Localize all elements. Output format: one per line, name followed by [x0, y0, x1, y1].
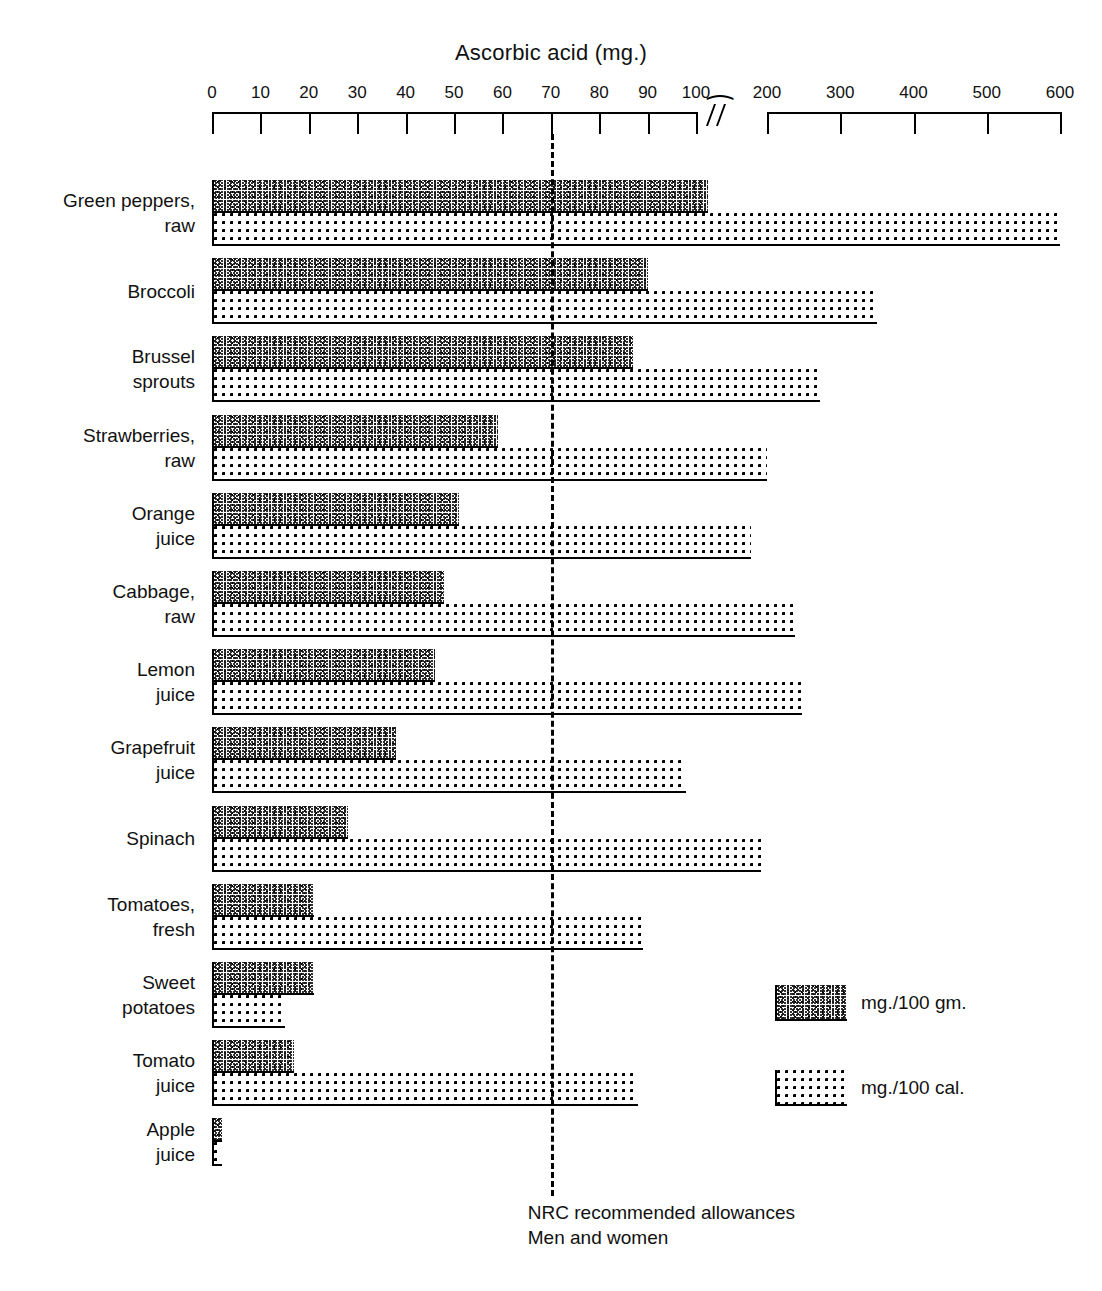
row-bars [212, 493, 751, 559]
row-bars [212, 180, 1060, 246]
category-label: Apple juice [30, 1117, 195, 1167]
axis-tick [260, 112, 262, 134]
axis-tick-label: 200 [737, 83, 797, 103]
bar-mg-per-100cal [212, 839, 761, 872]
axis-tick [502, 112, 504, 134]
bar-mg-per-100gm [212, 962, 314, 995]
axis-tick [987, 112, 989, 134]
bar-mg-per-100cal [212, 369, 820, 402]
nrc-reference-label: NRC recommended allowances Men and women [528, 1200, 795, 1250]
category-label-line2: juice [30, 1142, 195, 1167]
category-label-line2: juice [30, 760, 195, 785]
axis-tick-label: 100 [666, 83, 726, 103]
nrc-reference-line [551, 134, 554, 1196]
row-bars [212, 258, 877, 324]
category-label-line1: Brussel [30, 344, 195, 369]
legend-label: mg./100 gm. [861, 992, 967, 1014]
category-label: Spinach [30, 826, 195, 851]
category-label-line2: raw [30, 213, 195, 238]
category-label-line2: juice [30, 682, 195, 707]
axis-tick [599, 112, 601, 134]
category-label-line2: potatoes [30, 995, 195, 1020]
bar-mg-per-100gm [212, 806, 348, 839]
bar-mg-per-100gm [212, 1118, 222, 1142]
bar-mg-per-100cal [212, 291, 877, 324]
axis-tick [212, 112, 214, 134]
nrc-label-line2: Men and women [528, 1225, 795, 1250]
axis-tick [1060, 112, 1062, 134]
row-bars [212, 884, 643, 950]
legend-label: mg./100 cal. [861, 1077, 965, 1099]
axis-tick [406, 112, 408, 134]
category-label: Grapefruit juice [30, 735, 195, 785]
row-bars [212, 1040, 638, 1106]
category-label: Cabbage, raw [30, 579, 195, 629]
category-label-line1: Apple [30, 1117, 195, 1142]
category-label-line1: Broccoli [30, 279, 195, 304]
category-label: Strawberries, raw [30, 423, 195, 473]
axis-tick-label: 300 [810, 83, 870, 103]
row-bars [212, 1118, 222, 1166]
axis-tick [309, 112, 311, 134]
category-label-line2: sprouts [30, 369, 195, 394]
bar-mg-per-100cal [212, 213, 1060, 246]
bar-mg-per-100gm [212, 415, 498, 448]
category-label: Green peppers, raw [30, 188, 195, 238]
category-label-line1: Lemon [30, 657, 195, 682]
bar-mg-per-100gm [212, 258, 648, 291]
category-label-line1: Green peppers, [30, 188, 195, 213]
category-label-line2: raw [30, 448, 195, 473]
row-bars [212, 727, 686, 793]
category-label-line1: Grapefruit [30, 735, 195, 760]
category-label-line1: Tomatoes, [30, 892, 195, 917]
bar-mg-per-100cal [212, 760, 686, 793]
row-bars [212, 336, 820, 402]
row-bars [212, 806, 761, 872]
bar-mg-per-100cal [212, 604, 795, 637]
legend-swatch [775, 1070, 847, 1106]
axis-tick-label: 400 [884, 83, 944, 103]
bar-mg-per-100cal [212, 526, 751, 559]
row-bars [212, 962, 314, 1028]
legend-swatch [775, 985, 847, 1021]
category-label-line2: juice [30, 1073, 195, 1098]
axis-tick [840, 112, 842, 134]
bar-mg-per-100gm [212, 493, 459, 526]
axis-tick-label: 600 [1030, 83, 1090, 103]
row-bars [212, 649, 802, 715]
category-label-line1: Spinach [30, 826, 195, 851]
category-label: Broccoli [30, 279, 195, 304]
category-label: Tomato juice [30, 1048, 195, 1098]
axis-tick [357, 112, 359, 134]
bar-mg-per-100cal [212, 995, 285, 1028]
category-label: Brussel sprouts [30, 344, 195, 394]
category-label-line1: Strawberries, [30, 423, 195, 448]
category-label-line1: Cabbage, [30, 579, 195, 604]
bar-mg-per-100cal [212, 1142, 222, 1166]
chart-title: Ascorbic acid (mg.) [0, 40, 1102, 66]
bar-mg-per-100gm [212, 180, 708, 213]
nrc-label-line1: NRC recommended allowances [528, 1200, 795, 1225]
axis-tick [454, 112, 456, 134]
bar-mg-per-100cal [212, 682, 802, 715]
category-label: Tomatoes, fresh [30, 892, 195, 942]
category-label-line2: fresh [30, 917, 195, 942]
category-label: Orange juice [30, 501, 195, 551]
bar-mg-per-100gm [212, 336, 633, 369]
axis-tick-label: 500 [957, 83, 1017, 103]
axis-tick [648, 112, 650, 134]
bar-mg-per-100cal [212, 1073, 638, 1106]
category-label-line1: Orange [30, 501, 195, 526]
category-label-line1: Sweet [30, 970, 195, 995]
category-label-line1: Tomato [30, 1048, 195, 1073]
bar-mg-per-100gm [212, 727, 396, 760]
legend-item: mg./100 cal. [775, 1070, 1075, 1116]
row-bars [212, 571, 795, 637]
bar-mg-per-100cal [212, 448, 767, 481]
category-label-line2: juice [30, 526, 195, 551]
axis-tick [696, 112, 698, 134]
category-label: Lemon juice [30, 657, 195, 707]
legend-item: mg./100 gm. [775, 985, 1075, 1031]
axis-tick [914, 112, 916, 134]
axis-tick [767, 112, 769, 134]
